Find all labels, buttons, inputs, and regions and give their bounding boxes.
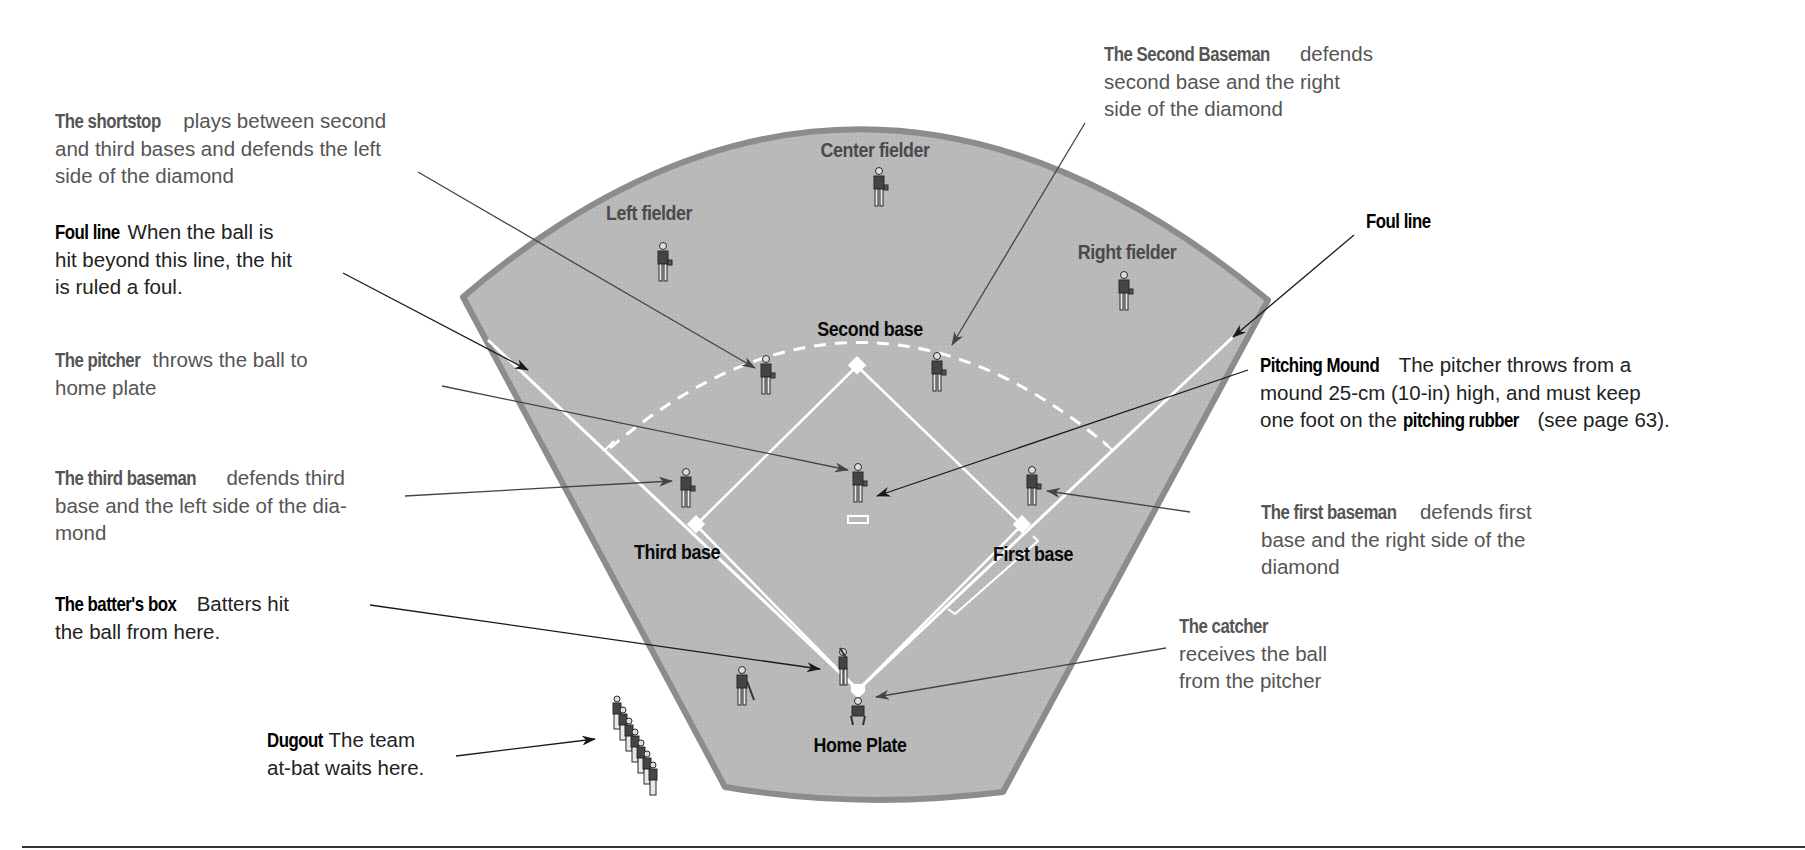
label-right-fielder: Right fielder [1063, 240, 1191, 264]
callout-line: the ball from here. [55, 620, 220, 643]
callout-line: one foot on the [1260, 408, 1397, 431]
callout-line: When the ball is [128, 220, 274, 243]
callout-term: The catcher [1179, 612, 1268, 640]
callout-line: The pitcher throws from a [1399, 353, 1631, 376]
callout-pitching-mound: Pitching Mound The pitcher throws from a… [1260, 351, 1805, 434]
callout-line: is ruled a foul. [55, 275, 183, 298]
label-third-base: Third base [622, 540, 733, 564]
callout-tail: (see page 63). [1538, 408, 1670, 431]
callout-line: and third bases and defends the left [55, 137, 381, 160]
callout-line: defends first [1420, 500, 1532, 523]
callout-line: diamond [1261, 555, 1340, 578]
callout-term: The shortstop [55, 107, 161, 135]
label-first-base: First base [978, 542, 1089, 566]
callout-line: The team [328, 728, 415, 751]
callout-line: plays between second [183, 109, 386, 132]
callout-foul-line-left: Foul line When the ball is hit beyond th… [55, 218, 415, 301]
dugout-players [613, 696, 657, 795]
callout-second-baseman: The Second Baseman defends second base a… [1104, 40, 1444, 123]
callout-term: The third baseman [55, 464, 196, 492]
label-second-base: Second base [802, 317, 938, 341]
callout-term: The Second Baseman [1104, 40, 1270, 68]
callout-term: The pitcher [55, 346, 140, 374]
label-left-fielder: Left fielder [585, 201, 713, 225]
callout-term: Pitching Mound [1260, 351, 1379, 379]
outfield-shape [463, 129, 1268, 800]
callout-line: at-bat waits here. [267, 756, 424, 779]
callout-line: mond [55, 521, 106, 544]
callout-term: Foul line [1366, 207, 1431, 235]
callout-batters-box: The batter's box Batters hit the ball fr… [55, 590, 375, 645]
callout-line: side of the diamond [1104, 97, 1283, 120]
callout-line: mound 25-cm (10-in) high, and must keep [1260, 381, 1641, 404]
callout-line: hit beyond this line, the hit [55, 248, 292, 271]
callout-line: home plate [55, 376, 156, 399]
callout-term: Foul line [55, 218, 120, 246]
callout-catcher: The catcher receives the ball from the p… [1179, 612, 1419, 695]
callout-term: The batter's box [55, 590, 176, 618]
callout-line: throws the ball to [153, 348, 308, 371]
callout-line: receives the ball [1179, 642, 1327, 665]
label-center-fielder: Center fielder [803, 138, 948, 162]
callout-shortstop: The shortstop plays between second and t… [55, 107, 465, 190]
label-home-plate: Home Plate [801, 733, 920, 757]
callout-inline-term: pitching rubber [1403, 406, 1519, 434]
callout-line: from the pitcher [1179, 669, 1321, 692]
callout-third-baseman: The third baseman defends third base and… [55, 464, 435, 547]
callout-term: The first baseman [1261, 498, 1397, 526]
baseball-field-diagram: Center fielder Left fielder Right fielde… [0, 0, 1805, 850]
callout-foul-line-right: Foul line [1366, 207, 1566, 235]
callout-first-baseman: The first baseman defends first base and… [1261, 498, 1621, 581]
callout-line: base and the left side of the dia- [55, 494, 347, 517]
callout-term: Dugout [267, 726, 323, 754]
callout-line: second base and the right [1104, 70, 1340, 93]
callout-line: defends [1300, 42, 1373, 65]
callout-line: side of the diamond [55, 164, 234, 187]
callout-dugout: Dugout The team at-bat waits here. [267, 726, 487, 781]
callout-line: defends third [226, 466, 345, 489]
callout-line: Batters hit [197, 592, 289, 615]
callout-line: base and the right side of the [1261, 528, 1525, 551]
callout-pitcher: The pitcher throws the ball to home plat… [55, 346, 415, 401]
batter-figure [839, 648, 847, 685]
